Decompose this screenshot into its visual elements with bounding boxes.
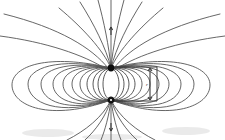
scan-artifacts	[22, 127, 210, 140]
radial-n-7	[59, 8, 111, 68]
figure-canvas: r	[0, 0, 225, 140]
field-loop-4	[87, 68, 135, 100]
field-loop-6	[72, 67, 150, 101]
radial-n-4	[111, 8, 163, 68]
open-field-line-group	[0, 14, 225, 69]
field-loop-2	[98, 68, 124, 100]
radial-n-5	[98, 0, 111, 68]
south-pole-radial-group	[67, 100, 155, 140]
north-pole-marker	[108, 65, 115, 72]
pole-group	[108, 65, 115, 104]
radial-s-2	[111, 100, 121, 140]
field-loop-1	[103, 68, 119, 100]
radius-arrow-label: r	[146, 82, 148, 87]
south-pole-marker-center	[110, 99, 112, 101]
field-loop-5	[80, 68, 142, 101]
radial-s-5	[101, 100, 111, 140]
magnetic-dipole-diagram: r	[0, 0, 225, 140]
radial-n-2	[111, 0, 124, 68]
